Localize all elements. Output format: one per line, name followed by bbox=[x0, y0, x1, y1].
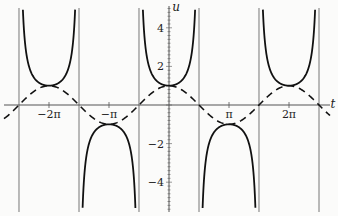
y-tick-label: −2 bbox=[148, 138, 164, 151]
y-tick-label: 4 bbox=[157, 22, 164, 35]
secant-branch bbox=[203, 124, 256, 208]
x-tick-label: −2π bbox=[37, 108, 60, 121]
x-tick-label: −π bbox=[101, 108, 117, 121]
y-axis-label: u bbox=[172, 0, 180, 14]
y-tick-label: −4 bbox=[148, 176, 164, 189]
chart-container: −2π−ππ2π42−2−4tu bbox=[0, 0, 338, 216]
x-tick-label: π bbox=[225, 108, 232, 121]
x-axis-label: t bbox=[331, 97, 336, 111]
secant-branch bbox=[23, 10, 75, 86]
secant-cosine-plot: −2π−ππ2π42−2−4tu bbox=[0, 0, 338, 216]
y-tick-label: 2 bbox=[157, 60, 164, 73]
x-tick-label: 2π bbox=[282, 108, 296, 121]
secant-branch bbox=[263, 10, 315, 86]
secant-branch bbox=[83, 124, 136, 208]
